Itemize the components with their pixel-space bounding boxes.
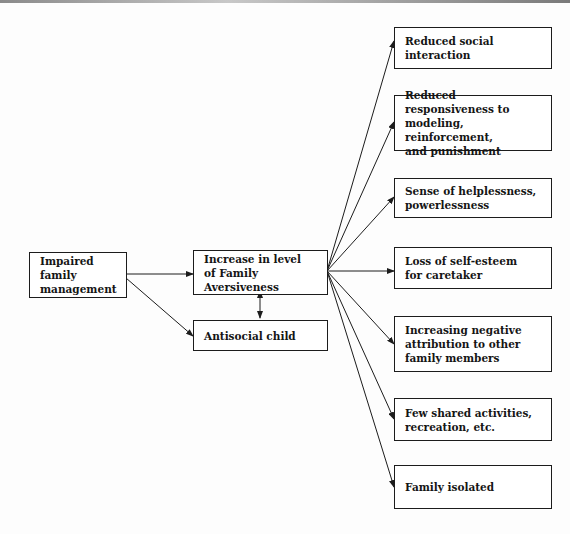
box-label: Loss of self-esteem for caretaker bbox=[405, 254, 517, 282]
box-label: Impaired family management bbox=[40, 254, 117, 296]
box-outcome-family-isolated: Family isolated bbox=[394, 465, 552, 509]
box-impaired-family-management: Impaired family management bbox=[29, 252, 127, 298]
box-label: Few shared activities, recreation, etc. bbox=[405, 406, 532, 434]
arrow-source-to-child bbox=[126, 278, 193, 336]
box-outcome-reduced-responsiveness: Reduced responsiveness to modeling, rein… bbox=[394, 95, 552, 151]
box-outcome-helplessness: Sense of helplessness, powerlessness bbox=[394, 178, 552, 218]
box-label: Family isolated bbox=[405, 480, 494, 494]
box-outcome-loss-self-esteem: Loss of self-esteem for caretaker bbox=[394, 247, 552, 289]
box-outcome-reduced-social-interaction: Reduced social interaction bbox=[394, 27, 552, 69]
box-label: Sense of helplessness, powerlessness bbox=[405, 184, 536, 212]
box-outcome-negative-attribution: Increasing negative attribution to other… bbox=[394, 316, 552, 372]
box-label: Increase in level of Family Aversiveness bbox=[204, 252, 317, 294]
box-label: Reduced responsiveness to modeling, rein… bbox=[405, 88, 541, 158]
box-family-aversiveness: Increase in level of Family Aversiveness bbox=[193, 250, 328, 295]
box-label: Reduced social interaction bbox=[405, 34, 494, 62]
box-antisocial-child: Antisocial child bbox=[193, 320, 328, 351]
box-label: Antisocial child bbox=[204, 329, 296, 343]
box-label: Increasing negative attribution to other… bbox=[405, 323, 522, 365]
box-outcome-few-shared-activities: Few shared activities, recreation, etc. bbox=[394, 398, 552, 441]
